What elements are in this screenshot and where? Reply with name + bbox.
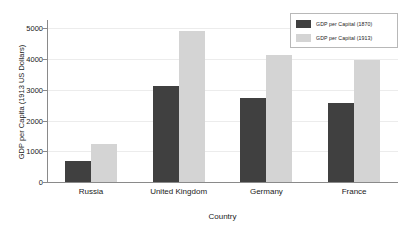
- bar-group: [135, 22, 223, 182]
- x-tick-label: United Kingdom: [150, 187, 207, 196]
- y-tick-label: 4000: [26, 54, 43, 63]
- legend-label: GDP per Capital (1870): [316, 21, 372, 27]
- bar: [65, 161, 91, 183]
- bar: [354, 60, 380, 182]
- y-tick-mark: [43, 121, 47, 122]
- bar: [179, 31, 205, 182]
- legend-swatch-icon: [296, 20, 311, 28]
- y-tick-label: 2000: [26, 116, 43, 125]
- y-axis-line: [47, 20, 48, 183]
- bar: [240, 98, 266, 182]
- y-tick-mark: [43, 59, 47, 60]
- bar: [91, 144, 117, 182]
- bar: [328, 103, 354, 182]
- x-tick-label: Russia: [79, 187, 103, 196]
- y-axis-title: GDP per Capita (1913 US Dollars): [17, 27, 26, 177]
- bar-group: [47, 22, 135, 182]
- y-tick-label: 3000: [26, 85, 43, 94]
- y-tick-mark: [43, 90, 47, 91]
- bar: [153, 86, 179, 182]
- x-axis-line: [46, 182, 398, 183]
- legend: GDP per Capital (1870) GDP per Capital (…: [290, 13, 398, 48]
- x-tick-label: Germany: [250, 187, 283, 196]
- x-tick-label: France: [342, 187, 367, 196]
- legend-item: GDP per Capital (1913): [296, 32, 392, 43]
- legend-label: GDP per Capital (1913): [316, 35, 372, 41]
- y-axis-title-holder: GDP per Capita (1913 US Dollars): [8, 22, 22, 182]
- x-axis-title: Country: [47, 212, 398, 221]
- y-tick-mark: [43, 28, 47, 29]
- y-tick-label: 1000: [26, 147, 43, 156]
- y-tick-mark: [43, 182, 47, 183]
- bar-chart: 010002000300040005000 GDP per Capita (19…: [0, 0, 408, 233]
- legend-item: GDP per Capital (1870): [296, 18, 392, 29]
- legend-swatch-icon: [296, 34, 311, 42]
- bar: [266, 55, 292, 182]
- y-tick-mark: [43, 151, 47, 152]
- y-tick-label: 5000: [26, 24, 43, 33]
